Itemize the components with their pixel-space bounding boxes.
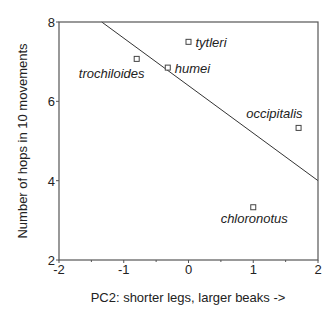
point-marker: [134, 56, 139, 61]
y-tick-label: 4: [48, 174, 55, 189]
axis-ticks: -2-10122468: [48, 15, 322, 277]
x-tick-label: 1: [250, 262, 257, 277]
point-label: occipitalis: [246, 106, 303, 121]
y-tick-label: 6: [48, 94, 55, 109]
data-point-trochiloides: trochiloides: [79, 56, 145, 81]
x-tick-label: -1: [118, 262, 130, 277]
point-label: chloronotus: [221, 211, 289, 226]
point-marker: [186, 39, 191, 44]
data-point-chloronotus: chloronotus: [221, 205, 289, 227]
scatter-chart: -2-10122468 trochiloidestytlerihumeiocci…: [0, 0, 334, 313]
point-marker: [251, 205, 256, 210]
point-marker: [296, 125, 301, 130]
point-marker: [165, 65, 170, 70]
y-tick-label: 2: [48, 253, 55, 268]
x-axis-title: PC2: shorter legs, larger beaks ->: [91, 290, 286, 305]
point-label: trochiloides: [79, 66, 145, 81]
data-points: trochiloidestytlerihumeioccipitalischlor…: [79, 35, 303, 226]
x-tick-label: 2: [314, 262, 321, 277]
point-label: tytleri: [196, 35, 228, 50]
data-point-tytleri: tytleri: [186, 35, 228, 50]
y-tick-label: 8: [48, 15, 55, 30]
point-label: humei: [175, 61, 212, 76]
y-axis-title: Number of hops in 10 movements: [15, 43, 30, 239]
x-tick-label: 0: [185, 262, 192, 277]
data-point-occipitalis: occipitalis: [246, 106, 303, 131]
